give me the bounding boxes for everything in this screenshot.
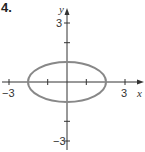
x-axis-label: x: [136, 87, 142, 99]
x-axis-arrow-icon: [137, 80, 144, 85]
y-tick-label-3: 3: [56, 17, 62, 29]
ellipse-chart: −3 3 x 3 −3 y: [0, 0, 145, 152]
x-tick-label-neg3: −3: [2, 87, 15, 99]
y-axis-label: y: [58, 3, 64, 15]
y-axis-arrow-icon: [65, 8, 70, 15]
y-tick-label-neg3: −3: [53, 135, 66, 147]
x-tick-label-3: 3: [121, 87, 127, 99]
